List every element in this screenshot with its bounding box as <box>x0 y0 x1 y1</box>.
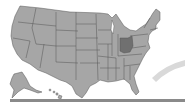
decorative-swoosh <box>152 60 185 82</box>
state-hawaii <box>49 89 62 99</box>
state-ohio-highlighted <box>120 36 133 53</box>
contiguous-us-landmass <box>11 6 160 98</box>
us-map <box>0 0 185 110</box>
contiguous-us <box>11 6 160 98</box>
state-alaska <box>10 72 42 98</box>
us-map-svg <box>0 0 185 110</box>
bottom-divider-bar <box>10 99 185 102</box>
